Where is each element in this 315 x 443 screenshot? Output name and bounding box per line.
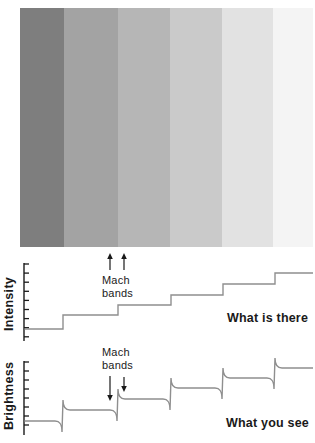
intensity-plot-arrow-2 bbox=[121, 253, 127, 270]
intensity-plot-arrow-1 bbox=[107, 253, 113, 270]
caption-what-is-there: What is there bbox=[227, 311, 308, 325]
intensity-plot bbox=[24, 253, 313, 341]
brightness-axis-label: Brightness bbox=[3, 362, 16, 430]
brightness-plot-arrow-1 bbox=[107, 376, 113, 401]
caption-what-you-see: What you see bbox=[226, 416, 309, 430]
mach-bands-annotation-brightness: Mach bands bbox=[102, 346, 148, 371]
intensity-axis-label: Intensity bbox=[3, 277, 16, 331]
mach-bands-annotation-intensity: Mach bands bbox=[102, 274, 148, 299]
mach-bands-figure: Intensity Brightness Mach bands Mach ban… bbox=[0, 0, 315, 443]
brightness-plot-arrow-2 bbox=[121, 377, 127, 392]
plots-svg bbox=[0, 0, 315, 443]
